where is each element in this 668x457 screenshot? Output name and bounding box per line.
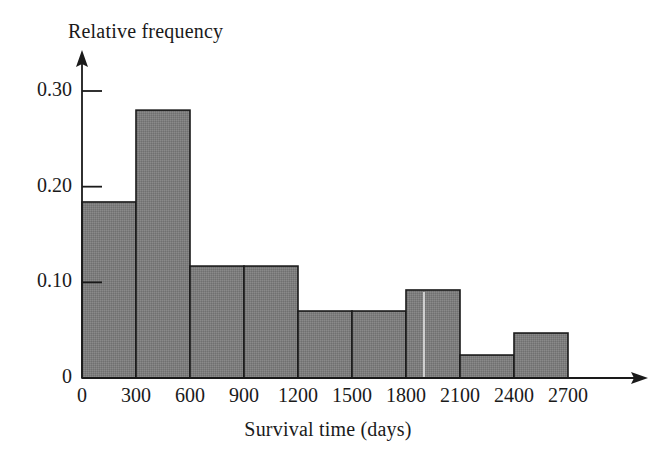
x-tick-label: 300 (106, 384, 166, 407)
histogram-bar (514, 333, 568, 378)
histogram-bar (190, 266, 244, 378)
x-tick-label: 2700 (538, 384, 598, 407)
y-tick-label: 0.30 (8, 78, 72, 101)
y-tick-label: 0.20 (8, 174, 72, 197)
histogram-bar (136, 110, 190, 378)
x-tick-label: 900 (214, 384, 274, 407)
x-tick-label: 1200 (268, 384, 328, 407)
histogram-bar (82, 202, 136, 378)
x-axis-title-wrap: Survival time (days) (0, 418, 668, 441)
x-tick-label: 0 (52, 384, 112, 407)
bar-series (82, 110, 568, 378)
x-axis-title: Survival time (days) (244, 418, 411, 440)
x-tick-label: 2400 (484, 384, 544, 407)
x-tick-label: 600 (160, 384, 220, 407)
x-tick-label: 2100 (430, 384, 490, 407)
histogram-bar (406, 290, 460, 378)
histogram-bar (244, 266, 298, 378)
histogram-bar (298, 311, 352, 378)
y-tick-label: 0.10 (8, 269, 72, 292)
x-tick-label: 1500 (322, 384, 382, 407)
x-tick-label: 1800 (376, 384, 436, 407)
histogram-bar (352, 311, 406, 378)
histogram-figure: Relative frequency 00.100.200.30 0300600… (0, 0, 668, 457)
histogram-bar (460, 355, 514, 378)
